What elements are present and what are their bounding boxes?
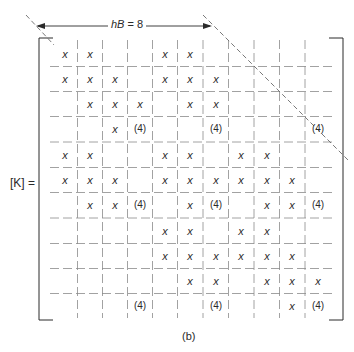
matrix-entry-nonzero: x [178,95,202,113]
matrix-entry-nonzero: x [204,171,228,189]
left-bracket [39,38,53,320]
matrix-entry-fill: (4) [128,196,152,214]
matrix-entry-nonzero: x [78,45,102,63]
matrix-entry-nonzero: x [53,45,77,63]
matrix-entry-nonzero: x [53,171,77,189]
matrix-entry-nonzero: x [280,196,304,214]
matrix-entry-fill: (4) [306,297,330,315]
arrow-head-left [36,23,45,29]
matrix-entry-nonzero: x [78,196,102,214]
right-bracket [329,38,343,320]
matrix-label: [K] = [10,176,35,190]
matrix-entry-nonzero: x [280,171,304,189]
bandwidth-value: = 8 [124,18,143,30]
matrix-entry-nonzero: x [153,45,177,63]
matrix-entry-nonzero: x [178,146,202,164]
matrix-entry-nonzero: x [178,247,202,265]
matrix-entry-fill: (4) [306,196,330,214]
bandwidth-label: hB = 8 [108,18,146,30]
matrix-entry-nonzero: x [153,146,177,164]
matrix-entry-nonzero: x [280,272,304,290]
matrix-entry-nonzero: x [255,222,279,240]
matrix-entry-nonzero: x [78,95,102,113]
matrix-entry-fill: (4) [306,120,330,138]
matrix-entry-nonzero: x [255,247,279,265]
matrix-entry-nonzero: x [178,272,202,290]
matrix-entry-nonzero: x [204,70,228,88]
matrix-entry-nonzero: x [103,171,127,189]
matrix-entry-nonzero: x [78,70,102,88]
matrix-entry-nonzero: x [280,247,304,265]
matrix-entry-fill: (4) [128,297,152,315]
matrix-entry-nonzero: x [128,95,152,113]
matrix-entry-nonzero: x [204,272,228,290]
matrix-entry-nonzero: x [178,196,202,214]
matrix-entry-nonzero: x [53,70,77,88]
left-band-diagonal [26,15,54,45]
arrow-head-right [203,23,212,29]
matrix-entry-nonzero: x [153,70,177,88]
matrix-entry-nonzero: x [204,247,228,265]
matrix-entry-nonzero: x [204,95,228,113]
matrix-entry-nonzero: x [178,70,202,88]
matrix-entry-nonzero: x [255,146,279,164]
matrix-entry-nonzero: x [255,196,279,214]
matrix-entry-nonzero: x [229,222,253,240]
matrix-entry-fill: (4) [128,120,152,138]
matrix-entry-nonzero: x [103,95,127,113]
matrix-entry-nonzero: x [153,222,177,240]
matrix-entry-nonzero: x [306,272,330,290]
matrix-entry-nonzero: x [229,171,253,189]
matrix-entry-nonzero: x [153,247,177,265]
matrix-entry-nonzero: x [78,171,102,189]
matrix-entry-nonzero: x [229,247,253,265]
matrix-entry-nonzero: x [103,196,127,214]
matrix-entry-nonzero: x [178,45,202,63]
matrix-entry-nonzero: x [255,272,279,290]
matrix-entry-nonzero: x [255,171,279,189]
matrix-entry-nonzero: x [53,146,77,164]
matrix-entry-nonzero: x [103,120,127,138]
matrix-entry-nonzero: x [178,171,202,189]
figure-caption: (b) [182,330,195,342]
matrix-entry-fill: (4) [204,297,228,315]
matrix-entry-fill: (4) [204,120,228,138]
matrix-entry-nonzero: x [103,70,127,88]
matrix-entry-nonzero: x [229,146,253,164]
matrix-entry-nonzero: x [78,146,102,164]
matrix-entry-fill: (4) [204,196,228,214]
matrix-entry-nonzero: x [280,297,304,315]
bandwidth-variable: hB [111,18,124,30]
right-band-diagonal [203,15,350,162]
matrix-entry-nonzero: x [178,222,202,240]
matrix-entry-nonzero: x [153,171,177,189]
bandwidth-diagonals [26,15,350,162]
